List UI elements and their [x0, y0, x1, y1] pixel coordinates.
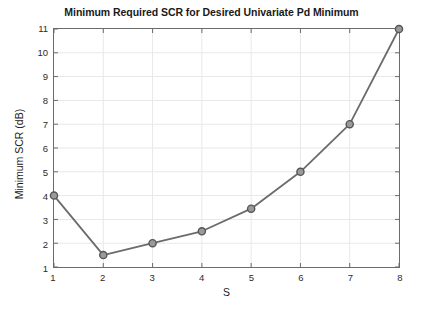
x-tick-label: 4: [190, 272, 214, 283]
y-tick-label: 8: [24, 95, 48, 106]
y-tick-label: 10: [24, 47, 48, 58]
y-tick-label: 6: [24, 143, 48, 154]
y-tick-label: 5: [24, 167, 48, 178]
y-tick-label: 2: [24, 239, 48, 250]
x-tick-label: 3: [140, 272, 164, 283]
x-axis-tick-labels: 12345678: [53, 272, 400, 286]
y-axis-tick-labels: 1234567891011: [22, 28, 48, 268]
x-tick-label: 5: [239, 272, 263, 283]
plot-area: [53, 28, 400, 268]
data-series-line: [54, 29, 399, 267]
x-tick-label: 7: [338, 272, 362, 283]
y-tick-label: 7: [24, 119, 48, 130]
y-tick-label: 11: [24, 23, 48, 34]
x-axis-label: S: [53, 286, 400, 298]
figure-container: Minimum Required SCR for Desired Univari…: [0, 0, 423, 310]
x-tick-label: 1: [41, 272, 65, 283]
y-tick-label: 9: [24, 71, 48, 82]
y-tick-label: 3: [24, 215, 48, 226]
x-tick-label: 8: [388, 272, 412, 283]
x-tick-label: 2: [91, 272, 115, 283]
x-tick-label: 6: [289, 272, 313, 283]
y-tick-label: 4: [24, 191, 48, 202]
chart-title: Minimum Required SCR for Desired Univari…: [0, 6, 423, 18]
